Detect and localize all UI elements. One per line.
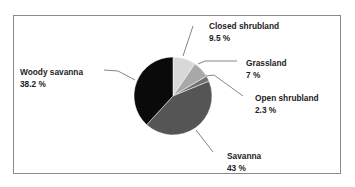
label-name: Grassland — [246, 57, 287, 69]
label-name: Closed shrubland — [209, 20, 279, 32]
leader-woody-savanna — [104, 70, 135, 80]
leader-grassland — [198, 61, 237, 64]
label-open-shrubland: Open shrubland 2.3 % — [255, 92, 319, 116]
label-name: Woody savanna — [20, 66, 83, 78]
label-grassland: Grassland 7 % — [246, 57, 287, 81]
label-savanna: Savanna 43 % — [227, 150, 261, 174]
label-value: 7 % — [246, 69, 287, 81]
label-name: Savanna — [227, 150, 261, 162]
label-value: 38.2 % — [20, 78, 83, 90]
label-name: Open shrubland — [255, 92, 319, 104]
label-woody-savanna: Woody savanna 38.2 % — [20, 66, 83, 90]
leader-savanna — [196, 130, 213, 152]
label-value: 43 % — [227, 162, 261, 174]
label-value: 2.3 % — [255, 104, 319, 116]
label-value: 9.5 % — [209, 32, 279, 44]
leader-closed-shrubland — [183, 26, 193, 56]
label-closed-shrubland: Closed shrubland 9.5 % — [209, 20, 279, 44]
